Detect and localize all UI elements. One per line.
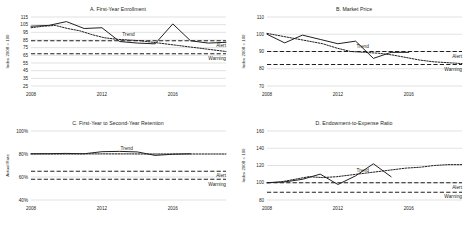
y-tick-label: 105 [20, 22, 28, 27]
series-line-actual [31, 151, 191, 155]
panel-c-retention: C. First-Year to Second-Year Retention 1… [0, 114, 236, 228]
panel-c-plot: 100%80%60%40%Actual Rate200820122016Aler… [0, 114, 236, 228]
x-tick-label: 2012 [333, 92, 344, 97]
threshold-label-alert: Alert [216, 173, 227, 178]
threshold-label-warning: Warning [444, 194, 462, 199]
y-tick-label: 85 [23, 38, 29, 43]
y-tick-label: 115 [21, 15, 29, 20]
y-tick-label: 140 [256, 146, 264, 151]
x-tick-label: 2012 [333, 206, 344, 211]
y-tick-label: 25 [23, 84, 29, 89]
y-tick-label: 65 [23, 53, 29, 58]
threshold-label-alert: Alert [452, 54, 463, 59]
x-tick-label: 2008 [26, 206, 37, 211]
x-tick-label: 2016 [168, 206, 179, 211]
y-axis-label: Index 2008 = 100 [241, 34, 246, 69]
threshold-label-alert: Alert [216, 43, 227, 48]
y-tick-label: 120 [256, 163, 264, 168]
y-tick-label: 80 [259, 198, 265, 203]
y-tick-label: 75 [23, 45, 29, 50]
x-tick-label: 2016 [168, 92, 179, 97]
x-tick-label: 2016 [404, 206, 415, 211]
panel-d-plot: 16014012010080Index 2008 = 1002008201220… [236, 114, 472, 228]
panel-d-endowment-ratio: D. Endowment-to-Expense Ratio 1601401201… [236, 114, 472, 228]
trend-label: Trend [357, 44, 370, 49]
y-tick-label: 160 [256, 129, 264, 134]
x-tick-label: 2012 [97, 92, 108, 97]
threshold-label-warning: Warning [208, 56, 226, 61]
threshold-label-warning: Warning [444, 67, 462, 72]
y-tick-label: 90 [259, 49, 265, 54]
y-tick-label: 100% [16, 129, 28, 134]
x-tick-label: 2008 [262, 92, 273, 97]
y-tick-label: 100 [256, 32, 264, 37]
y-tick-label: 110 [257, 15, 265, 20]
threshold-label-alert: Alert [452, 185, 463, 190]
y-axis-label: Index 2008 = 100 [241, 148, 246, 183]
y-tick-label: 70 [259, 84, 265, 89]
x-tick-label: 2008 [26, 92, 37, 97]
x-tick-label: 2016 [404, 92, 415, 97]
threshold-label-warning: Warning [208, 182, 226, 187]
y-tick-label: 45 [23, 68, 29, 73]
y-tick-label: 80% [19, 152, 28, 157]
y-tick-label: 80 [259, 66, 265, 71]
trend-label: Trend [122, 32, 135, 37]
y-tick-label: 100 [256, 180, 264, 185]
trend-label: Trend [357, 168, 370, 173]
y-axis-label: Actual Rate [5, 154, 10, 177]
y-tick-label: 60% [19, 175, 28, 180]
panel-b-market-price: B. Market Price 110100908070Index 2008 =… [236, 0, 472, 114]
four-panel-chart-figure: A. First-Year Enrollment 115105958575655… [0, 0, 472, 228]
panel-a-first-year-enrollment: A. First-Year Enrollment 115105958575655… [0, 0, 236, 114]
y-axis-label: Index 2008 = 100 [5, 34, 10, 69]
trend-label: Trend [121, 146, 134, 151]
y-tick-label: 40% [19, 198, 28, 203]
x-tick-label: 2012 [97, 206, 108, 211]
panel-a-plot: 1151059585756555453525Index 2008 = 10020… [0, 0, 236, 114]
panel-b-plot: 110100908070Index 2008 = 100200820122016… [236, 0, 472, 114]
y-tick-label: 95 [23, 30, 29, 35]
x-tick-label: 2008 [262, 206, 273, 211]
y-tick-label: 55 [23, 61, 29, 66]
y-tick-label: 35 [23, 76, 29, 81]
